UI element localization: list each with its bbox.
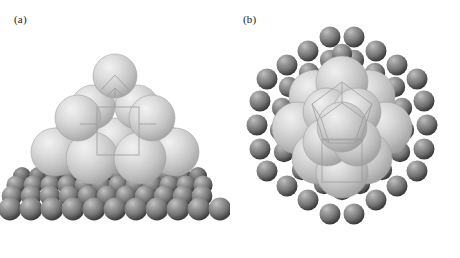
panel-b-scene — [230, 0, 460, 258]
substrate-row-front — [0, 198, 230, 221]
figure-container: (a) — [0, 0, 460, 258]
panel-a: (a) — [0, 0, 230, 258]
panel-b: (b) — [230, 0, 460, 258]
panel-a-scene — [0, 0, 230, 258]
cluster-topview-b — [272, 56, 412, 198]
panel-b-svg — [230, 0, 460, 258]
cluster-pyramid-a — [31, 54, 199, 184]
substrate-lattice-a — [0, 167, 230, 220]
panel-a-svg — [0, 0, 230, 258]
